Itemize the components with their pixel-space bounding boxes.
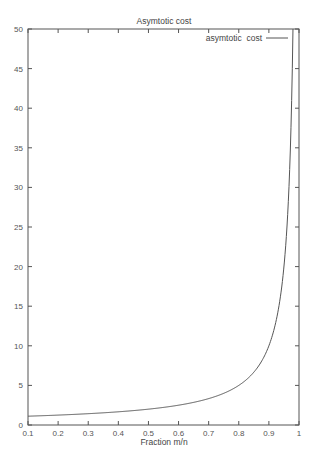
x-tick-label: 0.7 [203, 429, 215, 438]
x-tick-label: 0.4 [113, 429, 125, 438]
chart-title: Asymtotic cost [137, 16, 192, 26]
y-tick-label: 40 [14, 104, 23, 113]
x-tick-label: 1 [297, 429, 302, 438]
y-tick-label: 25 [14, 223, 23, 232]
legend: asymtotic cost [206, 33, 288, 43]
x-tick-label: 0.8 [233, 429, 245, 438]
legend-label: asymtotic cost [206, 33, 263, 43]
x-tick-label: 0.2 [53, 429, 65, 438]
x-tick-label: 0.3 [83, 429, 95, 438]
y-tick-label: 30 [14, 183, 23, 192]
y-tick-label: 50 [14, 25, 23, 34]
x-axis: 0.10.20.30.40.50.60.70.80.91 [22, 29, 301, 438]
x-axis-label: Fraction m/n [140, 437, 188, 447]
y-tick-label: 15 [14, 302, 23, 311]
y-tick-label: 10 [14, 342, 23, 351]
y-tick-label: 45 [14, 65, 23, 74]
y-tick-label: 5 [19, 381, 24, 390]
series-line-asymtotic-cost [28, 29, 293, 416]
y-tick-label: 20 [14, 263, 23, 272]
x-tick-label: 0.1 [22, 429, 34, 438]
y-tick-label: 35 [14, 144, 23, 153]
x-tick-label: 0.9 [263, 429, 275, 438]
line-chart: Asymtotic cost 05101520253035404550 0.10… [0, 0, 315, 453]
